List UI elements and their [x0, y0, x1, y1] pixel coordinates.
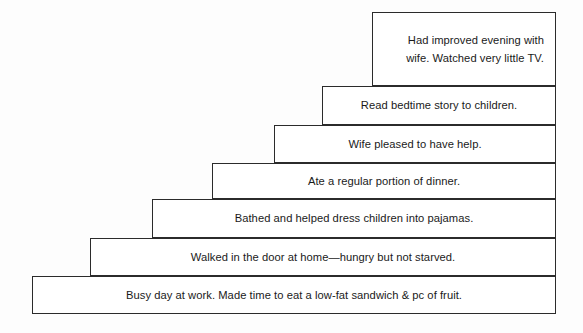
step-box-6-label: Walked in the door at home—hungry but no… — [100, 248, 546, 266]
step-box-2: Read bedtime story to children. — [322, 86, 556, 125]
staircase-diagram: Had improved evening with wife. Watched … — [0, 0, 583, 333]
step-box-3-label: Wife pleased to have help. — [284, 135, 546, 153]
step-box-6: Walked in the door at home—hungry but no… — [90, 238, 556, 276]
step-box-1-label: Had improved evening with wife. Watched … — [382, 31, 544, 67]
step-box-7: Busy day at work. Made time to eat a low… — [32, 276, 556, 314]
step-box-3: Wife pleased to have help. — [274, 125, 556, 163]
step-box-4-label: Ate a regular portion of dinner. — [222, 172, 546, 190]
step-box-1: Had improved evening with wife. Watched … — [372, 12, 556, 86]
step-box-5-label: Bathed and helped dress children into pa… — [162, 209, 546, 227]
step-box-7-label: Busy day at work. Made time to eat a low… — [42, 286, 546, 304]
step-box-4: Ate a regular portion of dinner. — [212, 163, 556, 199]
step-box-5: Bathed and helped dress children into pa… — [152, 199, 556, 238]
step-box-2-label: Read bedtime story to children. — [332, 96, 546, 114]
